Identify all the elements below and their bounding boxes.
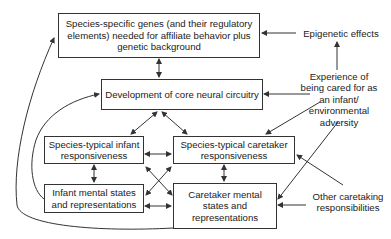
core-circuitry-box: Development of core neural circuitry: [101, 79, 263, 110]
genes-box: Species-specific genes (and their regula…: [58, 13, 260, 58]
infant-responsiveness-box: Species-typical infant responsiveness: [44, 136, 144, 164]
caretaker-mental-states-box: Caretaker mental states and representati…: [173, 183, 277, 229]
experience-label: Experience of being cared for as an infa…: [300, 71, 378, 128]
epigenetic-effects-label: Epigenetic effects: [297, 28, 385, 39]
caretaker-responsiveness-box: Species-typical caretaker responsiveness: [173, 136, 295, 164]
diagram-canvas: Species-specific genes (and their regula…: [0, 0, 391, 239]
other-responsibilities-label: Other caretaking responsibilities: [306, 191, 390, 214]
infant-mental-states-box: Infant mental states and representations: [44, 184, 144, 213]
